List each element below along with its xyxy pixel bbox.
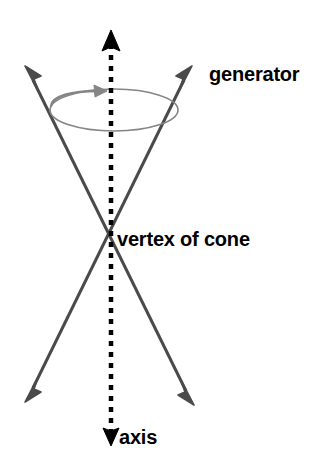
- rotation-direction-arrow: [51, 85, 107, 106]
- axis-arrowhead-down: [103, 428, 119, 446]
- generator-label: generator: [209, 64, 299, 84]
- rotation-direction-arrow-shaft: [51, 91, 98, 106]
- rotation-direction-arrow-head: [94, 85, 107, 97]
- vertex-of-cone-label: vertex of cone: [117, 229, 250, 249]
- directrix-circle: [50, 89, 178, 131]
- generator-line-a-arrowhead-bottom: [178, 380, 194, 405]
- generator-line-a-arrowhead-top: [25, 66, 41, 91]
- generator-line-b-arrowhead-bottom: [25, 377, 41, 402]
- generator-line-b-arrowhead-top: [176, 66, 192, 91]
- axis-label: axis: [119, 427, 157, 447]
- cone-diagram: generator vertex of cone axis: [0, 0, 334, 463]
